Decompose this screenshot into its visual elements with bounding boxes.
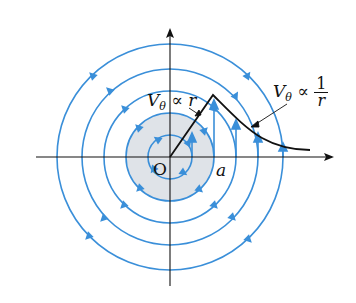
outer-law-rel: ∝ bbox=[297, 81, 309, 101]
outer-law-den: r bbox=[314, 93, 328, 109]
inner-law-rhs: r bbox=[188, 90, 196, 110]
origin-text: O bbox=[153, 159, 167, 179]
diagram-canvas bbox=[0, 0, 356, 303]
core-radius-text: a bbox=[216, 160, 226, 180]
inner-law-rel: ∝ bbox=[171, 90, 183, 110]
origin-label: O bbox=[153, 161, 167, 178]
outer-law-v: V bbox=[273, 81, 285, 101]
inner-law-v: V bbox=[147, 90, 159, 110]
outer-law-sub: θ bbox=[285, 91, 292, 104]
inner-law-label: Vθ ∝ r bbox=[147, 92, 196, 109]
outer-law-label: Vθ ∝ 1 r bbox=[273, 76, 328, 109]
vortex-diagram: O a Vθ ∝ r Vθ ∝ 1 r bbox=[0, 0, 356, 303]
outer-law-fraction: 1 r bbox=[314, 76, 328, 109]
core-radius-label: a bbox=[216, 162, 226, 179]
inner-law-sub: θ bbox=[159, 100, 166, 113]
